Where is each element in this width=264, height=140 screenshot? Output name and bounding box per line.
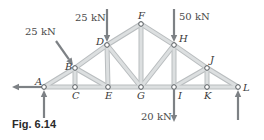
load-label-D: 25 kN — [75, 12, 106, 23]
load-label-B: 25 kN — [25, 26, 56, 37]
joint-label-E: E — [104, 90, 113, 101]
joint-label-K: K — [203, 90, 212, 101]
member-BD — [75, 45, 107, 68]
reaction-arrow-L-up — [235, 90, 241, 120]
joint-D — [105, 43, 110, 48]
arrowhead-icon — [41, 90, 47, 97]
load-label-H: 50 kN — [179, 11, 210, 22]
member-HJ — [174, 45, 207, 68]
joint-label-L: L — [242, 82, 250, 93]
joint-L — [236, 85, 241, 90]
member-JI — [174, 68, 207, 87]
load-arrow-H — [171, 9, 177, 42]
joint-label-G: G — [137, 90, 145, 101]
load-label-I: 20 kN — [141, 111, 172, 122]
load-labels: 25 kN25 kN50 kN20 kN — [25, 11, 210, 122]
joint-E — [106, 85, 111, 90]
member-JL — [207, 68, 238, 87]
member-BE — [75, 68, 108, 87]
member-DE — [107, 45, 108, 87]
member-DF — [107, 24, 141, 45]
joint-label-B: B — [64, 61, 72, 72]
joint-C — [73, 85, 78, 90]
joint-A — [42, 85, 47, 90]
joint-K — [205, 85, 210, 90]
joint-B — [73, 66, 78, 71]
figure-caption: Fig. 6.14 — [12, 118, 56, 130]
member-HG — [141, 45, 174, 87]
arrowhead-icon — [12, 84, 19, 90]
joint-H — [172, 43, 177, 48]
member-DG — [107, 45, 141, 87]
arrowhead-icon — [171, 115, 177, 122]
reaction-arrow-A-up — [41, 90, 47, 118]
joint-label-C: C — [72, 90, 80, 101]
joint-G — [139, 85, 144, 90]
joint-J — [205, 66, 210, 71]
member-FH — [141, 24, 174, 45]
joint-label-A: A — [34, 76, 42, 87]
arrowhead-icon — [235, 90, 241, 97]
joint-I — [172, 85, 177, 90]
load-arrow-I — [171, 90, 177, 122]
joint-label-J: J — [208, 54, 215, 65]
joint-label-H: H — [178, 33, 188, 44]
joint-F — [139, 22, 144, 27]
joint-label-I: I — [177, 90, 183, 101]
joint-label-F: F — [137, 10, 146, 21]
joint-label-D: D — [95, 36, 104, 47]
